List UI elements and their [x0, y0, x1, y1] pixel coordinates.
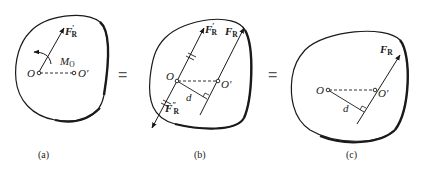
- caption-a: (a): [38, 149, 49, 161]
- label-o-prime: O′: [78, 67, 89, 79]
- label-d: d: [343, 102, 349, 114]
- svg-text:FR: FR: [379, 43, 393, 57]
- label-o: O: [27, 67, 35, 79]
- caption-c: (c): [346, 149, 357, 161]
- equals-sign-2: =: [268, 66, 277, 83]
- label-o: O: [166, 70, 174, 82]
- point-o: [175, 79, 179, 83]
- diagram-canvas: F′R MO O O′ (a) = F′R FR F″R O O′ d (b: [0, 0, 422, 173]
- label-o-prime: O′: [221, 78, 232, 90]
- panel-a: F′R MO O O′ (a): [16, 15, 108, 161]
- distance-line: [177, 81, 207, 99]
- svg-text:F′R: F′R: [64, 24, 77, 39]
- svg-text:FR: FR: [224, 25, 238, 39]
- panel-b: F′R FR F″R O O′ d (b): [150, 19, 252, 161]
- label-d: d: [186, 91, 192, 103]
- panel-c: FR O O′ d (c): [291, 31, 407, 161]
- label-o: O: [316, 84, 324, 96]
- force-vector-arrow: [200, 28, 244, 115]
- point-o-prime: [373, 88, 377, 92]
- svg-text:MO: MO: [59, 55, 75, 69]
- moment-arc-arrow: [34, 52, 51, 64]
- svg-text:F′R: F′R: [204, 22, 217, 37]
- point-o-prime: [72, 71, 76, 75]
- label-o-prime: O′: [378, 87, 389, 99]
- point-o-prime: [216, 79, 220, 83]
- point-o: [326, 88, 330, 92]
- caption-b: (b): [194, 149, 206, 161]
- svg-text:F″R: F″R: [164, 101, 180, 116]
- point-o: [37, 71, 41, 75]
- equals-sign-1: =: [118, 66, 127, 83]
